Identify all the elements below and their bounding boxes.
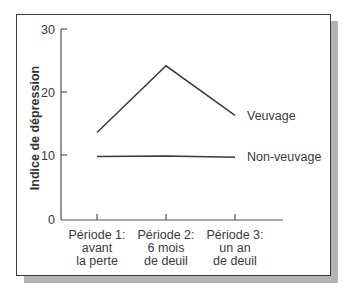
axes <box>61 29 283 220</box>
x-tick-label-3-line2: un an <box>219 241 250 255</box>
line-chart: 30 20 10 0 Indice de dépression Période … <box>0 0 350 292</box>
series-line-veuvage <box>97 66 235 133</box>
x-tick-label-2-line3: de deuil <box>144 254 188 268</box>
y-tick-label-0: 0 <box>48 213 55 227</box>
x-tick-labels: Période 1: avant la perte Période 2: 6 m… <box>69 228 264 268</box>
x-tick-label-2-line2: 6 mois <box>148 241 185 255</box>
y-tick-label-20: 20 <box>41 86 55 100</box>
y-axis-label: Indice de dépression <box>28 66 42 190</box>
y-tick-label-30: 30 <box>41 23 55 37</box>
series-line-non-veuvage <box>97 156 235 157</box>
x-tick-label-1-line1: Période 1: <box>69 228 126 242</box>
series-label-veuvage: Veuvage <box>247 109 296 123</box>
x-tick-label-3-line1: Période 3: <box>207 228 264 242</box>
x-tick-label-2-line1: Période 2: <box>138 228 195 242</box>
x-tick-label-1-line3: la perte <box>76 254 118 268</box>
x-tick-label-3-line3: de deuil <box>213 254 257 268</box>
y-tick-label-10: 10 <box>41 149 55 163</box>
x-tick-label-1-line2: avant <box>82 241 113 255</box>
series-label-non-veuvage: Non-veuvage <box>247 150 321 164</box>
